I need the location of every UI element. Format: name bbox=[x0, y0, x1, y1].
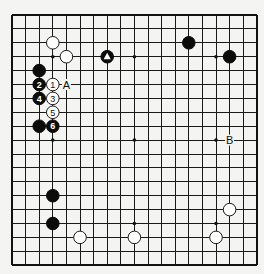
white-stone bbox=[74, 231, 87, 244]
star-point-icon bbox=[51, 138, 55, 142]
black-stone: 4 bbox=[33, 92, 46, 105]
black-stone-icon bbox=[47, 189, 60, 202]
white-stone bbox=[223, 203, 236, 216]
white-stone-icon bbox=[128, 231, 141, 244]
white-stone bbox=[60, 50, 73, 63]
black-stone bbox=[47, 217, 60, 230]
black-stone bbox=[33, 120, 46, 133]
move-number: 5 bbox=[50, 108, 55, 118]
black-stone-icon bbox=[183, 37, 196, 50]
point-label-b: B bbox=[226, 134, 233, 146]
star-point-icon bbox=[133, 55, 137, 59]
black-stone-icon bbox=[33, 64, 46, 77]
black-stone bbox=[33, 64, 46, 77]
white-stone bbox=[128, 231, 141, 244]
star-point-icon bbox=[133, 138, 137, 142]
white-stone-icon bbox=[223, 203, 236, 216]
move-number: 2 bbox=[37, 80, 42, 90]
white-stone-icon bbox=[47, 37, 60, 50]
white-stone: 1 bbox=[47, 78, 60, 91]
star-point-icon bbox=[214, 55, 218, 59]
black-stone bbox=[47, 189, 60, 202]
move-number: 3 bbox=[50, 94, 55, 104]
white-stone: 5 bbox=[47, 106, 60, 119]
star-point-icon bbox=[214, 222, 218, 226]
black-stone-icon bbox=[33, 120, 46, 133]
white-stone-icon bbox=[210, 231, 223, 244]
star-point-icon bbox=[214, 138, 218, 142]
white-stone-icon bbox=[60, 50, 73, 63]
white-stone bbox=[47, 37, 60, 50]
black-stone bbox=[183, 37, 196, 50]
point-label-a: A bbox=[63, 79, 71, 91]
move-number: 1 bbox=[50, 80, 55, 90]
black-stone-icon bbox=[223, 50, 236, 63]
white-stone: 3 bbox=[47, 92, 60, 105]
white-stone-icon bbox=[74, 231, 87, 244]
black-stone: 6 bbox=[47, 120, 60, 133]
black-stone bbox=[101, 50, 114, 63]
move-number: 6 bbox=[50, 121, 55, 131]
move-number: 4 bbox=[37, 94, 42, 104]
star-point-icon bbox=[133, 222, 137, 226]
go-board-diagram: 123456 AB bbox=[0, 0, 264, 274]
white-stone bbox=[210, 231, 223, 244]
black-stone bbox=[223, 50, 236, 63]
go-board: 123456 AB bbox=[0, 0, 264, 274]
star-point-icon bbox=[51, 55, 55, 59]
black-stone: 2 bbox=[33, 78, 46, 91]
black-stone-icon bbox=[47, 217, 60, 230]
